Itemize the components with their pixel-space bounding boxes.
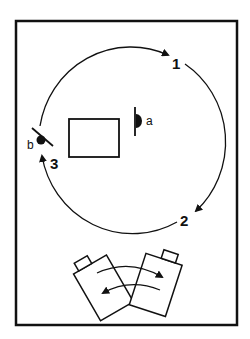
camera-right-icon — [129, 245, 185, 317]
path-segment-1-to-2 — [185, 64, 226, 211]
room-frame — [16, 21, 237, 325]
diagram-canvas: 1 2 3 a b — [0, 0, 250, 339]
position-label-1: 1 — [172, 55, 180, 72]
position-label-2: 2 — [180, 212, 188, 229]
circular-camera-path — [40, 47, 226, 234]
path-segment-2-to-3 — [42, 156, 177, 234]
camera-left-icon — [69, 247, 133, 321]
table-rectangle — [69, 119, 119, 157]
subject-b-icon — [32, 128, 53, 146]
subject-label-a: a — [146, 114, 153, 128]
position-label-3: 3 — [50, 155, 58, 172]
subject-label-b: b — [27, 138, 34, 152]
subject-a-icon — [135, 107, 142, 136]
